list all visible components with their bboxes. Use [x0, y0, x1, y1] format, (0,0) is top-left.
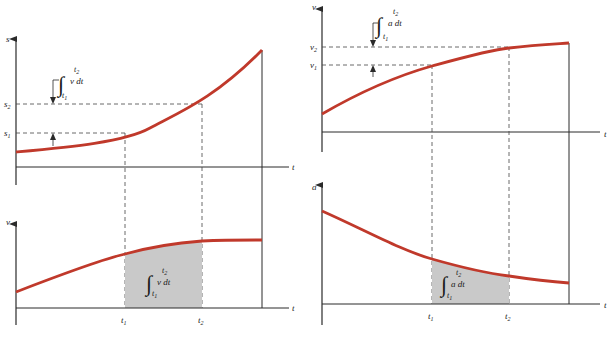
v2-label: v2 — [310, 42, 317, 53]
v-axis-label: v — [312, 2, 316, 12]
t2-tick-label: t2 — [505, 311, 511, 322]
panel-velocity-time-left: v t t1 t2 ∫ t2 v dt t1 — [6, 217, 295, 326]
t1-tick-label: t1 — [428, 311, 434, 322]
svg-text:t1: t1 — [383, 32, 388, 42]
svg-text:t2: t2 — [393, 7, 398, 17]
svg-text:v dt: v dt — [70, 76, 84, 86]
t-axis-label: t — [292, 303, 295, 313]
s2-label: s2 — [4, 99, 11, 110]
svg-text:v dt: v dt — [157, 277, 171, 287]
integral-a-dt-label: ∫ t2 a dt t1 — [374, 7, 402, 42]
svg-text:t2: t2 — [74, 65, 79, 75]
t2-tick-label: t2 — [198, 315, 204, 326]
v1-label: v1 — [310, 60, 317, 71]
integral-v-dt-label: ∫ t2 v dt t1 — [56, 65, 84, 101]
a-axis-label: a — [312, 182, 317, 192]
t-axis-label: t — [604, 129, 607, 139]
svg-text:t1: t1 — [62, 91, 67, 101]
t-axis-label: t — [292, 162, 295, 172]
t1-tick-label: t1 — [121, 315, 127, 326]
svg-text:a dt: a dt — [451, 279, 465, 289]
arrow-up-icon — [370, 65, 376, 72]
s-axis-label: s — [6, 34, 10, 44]
svg-text:a dt: a dt — [388, 18, 402, 28]
panel-acceleration-time: a t t1 t2 ∫ t2 a dt t1 — [312, 182, 607, 325]
s1-label: s1 — [4, 128, 11, 139]
panel-velocity-time-right: v t v2 v1 ∫ t2 a dt t1 — [310, 2, 607, 304]
v-axis-label: v — [6, 217, 10, 227]
kinematics-diagram: s t s2 s1 ∫ t2 v dt t1 v t t1 t2 — [0, 0, 612, 338]
arrow-up-icon — [50, 133, 56, 140]
velocity-curve — [322, 43, 569, 114]
t-axis-label: t — [604, 300, 607, 310]
